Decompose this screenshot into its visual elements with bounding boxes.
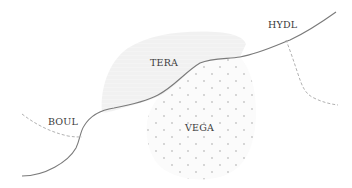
hydl-dashed-line: [286, 40, 338, 105]
map: TERA HYDL BOUL VEGA: [0, 0, 352, 188]
label-vega: VEGA: [185, 123, 214, 133]
label-hydl: HYDL: [268, 20, 297, 30]
label-tera: TERA: [150, 58, 178, 68]
label-boul: BOUL: [48, 117, 78, 127]
map-canvas: [0, 0, 352, 188]
